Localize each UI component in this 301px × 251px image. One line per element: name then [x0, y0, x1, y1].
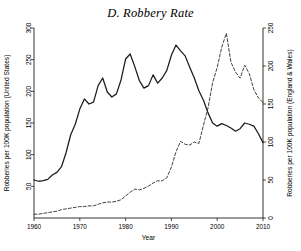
- robbery-rate-figure: D. Robbery Rate 50100150200250300 050100…: [0, 0, 301, 251]
- left-tick-label: 200: [25, 86, 32, 97]
- right-tick-label: 100: [267, 136, 274, 147]
- left-tick-label: 100: [25, 149, 32, 160]
- left-tick-label: 250: [25, 54, 32, 65]
- left-axis: 50100150200250300: [25, 22, 34, 218]
- right-axis-title: Robberies per 100K population (England &…: [286, 49, 294, 196]
- left-tick-label: 150: [25, 117, 32, 128]
- x-tick-label: 1980: [118, 223, 133, 230]
- right-tick-label: 200: [267, 60, 274, 71]
- left-tick-label: 50: [25, 182, 32, 190]
- x-tick-label: 1990: [164, 223, 179, 230]
- series-line-united-states: [34, 45, 263, 181]
- x-tick-label: 1970: [73, 223, 88, 230]
- left-axis-title: Robberies per 100K population (United St…: [3, 55, 11, 192]
- x-tick-label: 2000: [210, 223, 225, 230]
- right-tick-label: 150: [267, 98, 274, 109]
- right-axis: 050100150200250: [263, 22, 274, 220]
- x-tick-label: 2010: [256, 223, 271, 230]
- x-axis-title: Year: [142, 234, 156, 241]
- series-layer: [34, 33, 263, 214]
- x-axis: 196019701980199020002010: [27, 218, 271, 230]
- left-tick-label: 300: [25, 22, 32, 33]
- right-tick-label: 0: [267, 216, 274, 220]
- series-line-england-wales: [34, 33, 263, 214]
- chart-canvas: 50100150200250300 050100150200250 196019…: [0, 0, 301, 251]
- x-tick-label: 1960: [27, 223, 42, 230]
- right-tick-label: 250: [267, 22, 274, 33]
- right-tick-label: 50: [267, 176, 274, 184]
